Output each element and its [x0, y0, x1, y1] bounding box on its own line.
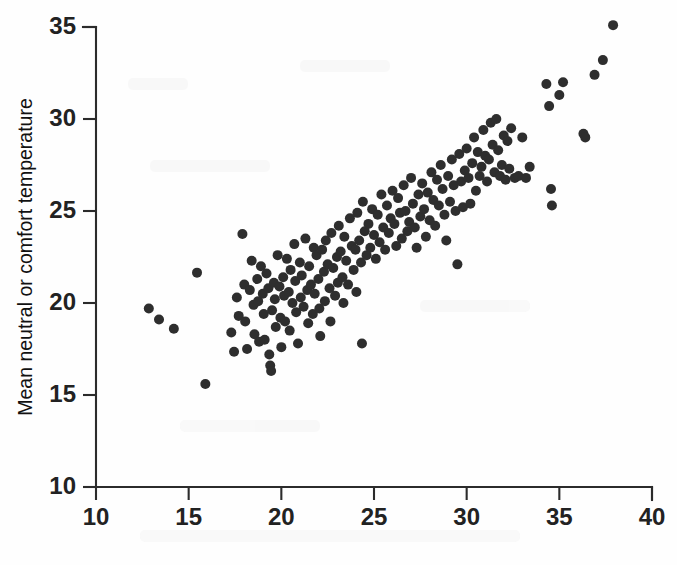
data-point — [295, 258, 305, 268]
data-point — [546, 184, 556, 194]
data-point — [506, 123, 516, 133]
data-point — [401, 206, 411, 216]
data-point — [354, 235, 364, 245]
data-point — [266, 366, 276, 376]
data-point — [232, 292, 242, 302]
x-tick-label-30: 30 — [453, 503, 480, 530]
data-point — [504, 164, 514, 174]
x-tick-label-15: 15 — [175, 503, 202, 530]
data-point — [341, 256, 351, 266]
y-tick-label-25: 25 — [49, 196, 76, 223]
data-point — [419, 204, 429, 214]
data-point — [339, 232, 349, 242]
scatter-plot-figure: 101520253035 10152025303540 Mean neutral… — [0, 0, 677, 565]
data-point — [334, 221, 344, 231]
data-point — [282, 254, 292, 264]
data-point — [350, 245, 360, 255]
x-axis-tick-labels: 10152025303540 — [83, 503, 666, 530]
data-point — [336, 246, 346, 256]
data-point — [278, 272, 288, 282]
data-point — [408, 199, 418, 209]
data-point — [439, 210, 449, 220]
data-point — [525, 162, 535, 172]
data-point — [441, 235, 451, 245]
data-point — [260, 335, 270, 345]
y-tick-label-30: 30 — [49, 104, 76, 131]
x-tick-label-25: 25 — [361, 503, 388, 530]
data-point — [264, 350, 274, 360]
data-point — [240, 316, 250, 326]
data-point — [443, 171, 453, 181]
data-point — [406, 173, 416, 183]
data-point — [452, 259, 462, 269]
data-point — [393, 193, 403, 203]
data-point — [467, 158, 477, 168]
data-point — [558, 77, 568, 87]
data-point — [297, 270, 307, 280]
data-point — [493, 145, 503, 155]
data-point — [399, 180, 409, 190]
data-point — [349, 265, 359, 275]
data-point — [247, 256, 257, 266]
data-point — [517, 132, 527, 142]
data-point — [192, 268, 202, 278]
data-point — [280, 316, 290, 326]
data-point — [328, 263, 338, 273]
data-point — [237, 229, 247, 239]
data-point — [590, 70, 600, 80]
data-point — [300, 234, 310, 244]
data-point — [389, 219, 399, 229]
data-point — [229, 347, 239, 357]
data-point — [580, 132, 590, 142]
plot-canvas: 101520253035 10152025303540 Mean neutral… — [0, 0, 677, 565]
data-point — [373, 210, 383, 220]
data-point — [276, 342, 286, 352]
data-point — [226, 327, 236, 337]
data-point — [541, 79, 551, 89]
data-point — [434, 200, 444, 210]
data-point — [273, 250, 283, 260]
data-point — [338, 298, 348, 308]
data-point — [421, 232, 431, 242]
data-point — [363, 219, 373, 229]
data-point — [169, 324, 179, 334]
data-point — [343, 280, 353, 290]
x-tick-label-10: 10 — [83, 503, 110, 530]
data-point — [271, 322, 281, 332]
data-point — [371, 254, 381, 264]
data-point — [303, 318, 313, 328]
data-point — [501, 175, 511, 185]
axis-lines — [83, 27, 652, 500]
data-point — [465, 199, 475, 209]
data-point — [608, 20, 618, 30]
y-tick-label-35: 35 — [49, 12, 76, 39]
data-point — [351, 287, 361, 297]
data-point — [484, 154, 494, 164]
x-tick-label-40: 40 — [639, 503, 666, 530]
data-point — [471, 186, 481, 196]
data-point — [445, 197, 455, 207]
data-point — [262, 269, 272, 279]
data-point — [270, 294, 280, 304]
x-tick-label-20: 20 — [268, 503, 295, 530]
data-point — [547, 200, 557, 210]
data-point — [413, 189, 423, 199]
data-point — [412, 243, 422, 253]
scatter-points-layer — [144, 20, 618, 389]
data-point — [144, 304, 154, 314]
x-axis-ticks — [96, 487, 652, 500]
data-point — [317, 245, 327, 255]
data-point — [315, 331, 325, 341]
data-point — [380, 245, 390, 255]
data-point — [544, 101, 554, 111]
data-point — [438, 184, 448, 194]
data-point — [384, 228, 394, 238]
y-axis-ticks — [83, 27, 96, 487]
data-point — [469, 132, 479, 142]
data-point — [326, 228, 336, 238]
data-point — [365, 243, 375, 253]
data-point — [382, 200, 392, 210]
data-point — [464, 173, 474, 183]
data-point — [521, 173, 531, 183]
data-point — [242, 344, 252, 354]
